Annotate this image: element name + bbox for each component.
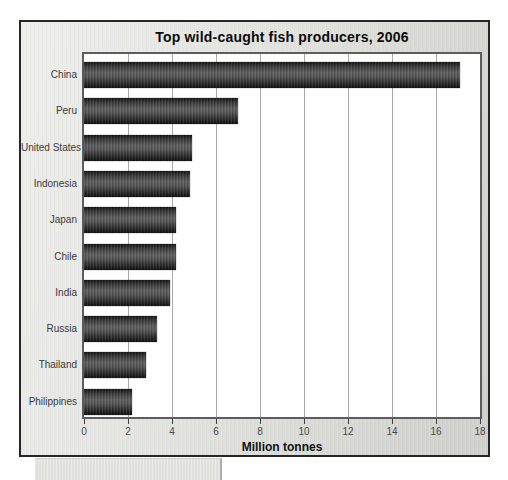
tick-mark (172, 419, 173, 424)
bar-chile (84, 244, 176, 270)
bar-philippines (84, 389, 132, 415)
plot-area (82, 52, 482, 419)
category-label: China (21, 69, 77, 80)
x-axis-title: Million tonnes (82, 440, 482, 454)
tick-label: 6 (203, 426, 229, 437)
tick-label: 10 (291, 426, 317, 437)
tick-mark (436, 419, 437, 424)
bar-indonesia (84, 171, 190, 197)
tick-label: 4 (159, 426, 185, 437)
category-label-column: ChinaPeruUnited StatesIndonesiaJapanChil… (21, 52, 77, 419)
category-label: India (21, 287, 77, 298)
category-label: Russia (21, 323, 77, 334)
page-edge-artifact (35, 458, 222, 480)
figure-panel: Top wild-caught fish producers, 2006 Chi… (19, 20, 490, 457)
category-label: Peru (21, 105, 77, 116)
bar-thailand (84, 352, 146, 378)
tick-mark (260, 419, 261, 424)
tick-label: 8 (247, 426, 273, 437)
tick-mark (480, 419, 481, 424)
tick-label: 0 (71, 426, 97, 437)
bar-china (84, 62, 460, 88)
bar-peru (84, 98, 238, 124)
bar-united-states (84, 135, 192, 161)
bar-russia (84, 316, 157, 342)
tick-mark (392, 419, 393, 424)
tick-mark (304, 419, 305, 424)
tick-label: 16 (423, 426, 449, 437)
tick-mark (128, 419, 129, 424)
tick-label: 18 (467, 426, 493, 437)
category-label: Indonesia (21, 178, 77, 189)
category-label: Philippines (21, 396, 77, 407)
chart-title: Top wild-caught fish producers, 2006 (82, 29, 482, 45)
gridline (348, 54, 349, 417)
category-label: Chile (21, 251, 77, 262)
gridline (260, 54, 261, 417)
tick-mark (84, 419, 85, 424)
gridline (436, 54, 437, 417)
tick-mark (348, 419, 349, 424)
tick-mark (216, 419, 217, 424)
bar-india (84, 280, 170, 306)
tick-label: 12 (335, 426, 361, 437)
bar-japan (84, 207, 176, 233)
gridline (392, 54, 393, 417)
category-label: United States (21, 142, 77, 153)
plot-inner (84, 54, 480, 417)
gridline (304, 54, 305, 417)
tick-label: 2 (115, 426, 141, 437)
category-label: Japan (21, 214, 77, 225)
tick-label: 14 (379, 426, 405, 437)
category-label: Thailand (21, 359, 77, 370)
